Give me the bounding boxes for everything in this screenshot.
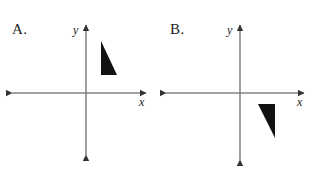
panel-a-triangle — [101, 41, 117, 75]
diagram-panel-a: A. y x — [0, 0, 158, 170]
panel-b-x-axis-label: x — [297, 96, 302, 108]
panel-b-y-axis-label: y — [227, 24, 232, 36]
panel-a-coordinate-plane — [0, 0, 158, 170]
diagram-panel-b: B. y x — [158, 0, 316, 170]
panel-a-y-axis-label: y — [73, 24, 78, 36]
panel-a-x-axis-label: x — [139, 96, 144, 108]
panel-b-coordinate-plane — [158, 0, 316, 170]
panel-b-triangle — [258, 104, 275, 138]
